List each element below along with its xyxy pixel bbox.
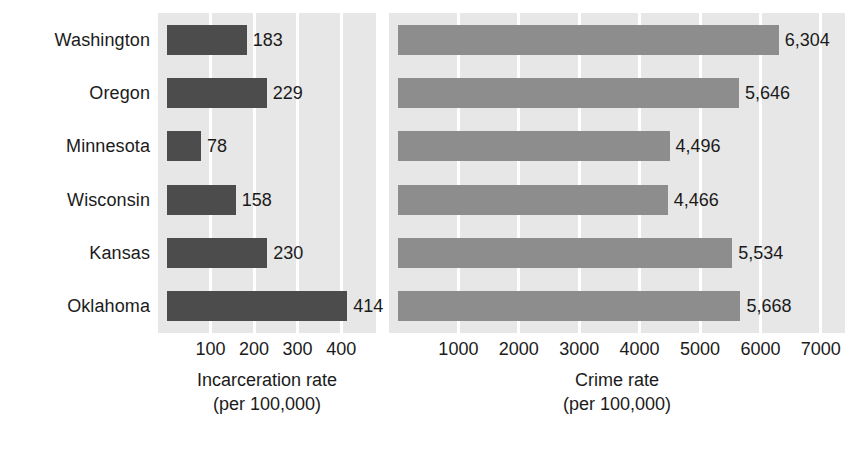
x-axis-title-sub: (per 100,000) bbox=[158, 392, 376, 416]
category-label: Wisconsin bbox=[0, 190, 150, 210]
bar-row: 158 bbox=[158, 185, 376, 215]
bar-value-label: 4,466 bbox=[668, 190, 719, 210]
x-tick-label: 6000 bbox=[740, 338, 780, 360]
bar-row: 230 bbox=[158, 238, 376, 268]
bars-incarceration: 18322978158230414 bbox=[158, 13, 376, 333]
bar-value-label: 183 bbox=[247, 30, 283, 50]
x-tick-label: 1000 bbox=[438, 338, 478, 360]
bar-value-label: 78 bbox=[201, 136, 227, 156]
x-tick-label: 200 bbox=[239, 338, 269, 360]
x-tick-label: 7000 bbox=[801, 338, 841, 360]
bar bbox=[167, 131, 201, 161]
bar bbox=[398, 185, 668, 215]
bar-row: 78 bbox=[158, 131, 376, 161]
x-tick-label: 2000 bbox=[499, 338, 539, 360]
x-tick-label: 400 bbox=[326, 338, 356, 360]
bar-value-label: 5,534 bbox=[732, 243, 783, 263]
bar-value-label: 6,304 bbox=[779, 30, 830, 50]
bar bbox=[398, 25, 779, 55]
bar-value-label: 4,496 bbox=[670, 136, 721, 156]
bar bbox=[167, 291, 347, 321]
x-axis-title-main: Crime rate bbox=[575, 370, 659, 390]
bar-row: 229 bbox=[158, 78, 376, 108]
x-tick-label: 100 bbox=[196, 338, 226, 360]
x-axis-title-main: Incarceration rate bbox=[197, 370, 337, 390]
bar bbox=[167, 78, 267, 108]
bar-value-label: 414 bbox=[347, 296, 383, 316]
bar-row: 183 bbox=[158, 25, 376, 55]
x-axis-title-crime: Crime rate (per 100,000) bbox=[389, 368, 845, 416]
bars-crime: 6,3045,6464,4964,4665,5345,668 bbox=[389, 13, 845, 333]
chart-figure: WashingtonOregonMinnesotaWisconsinKansas… bbox=[0, 0, 854, 459]
x-axis-title-incarceration: Incarceration rate (per 100,000) bbox=[158, 368, 376, 416]
bar-row: 5,646 bbox=[389, 78, 845, 108]
x-tick-label: 4000 bbox=[620, 338, 660, 360]
bar-row: 6,304 bbox=[389, 25, 845, 55]
x-axis-title-sub: (per 100,000) bbox=[389, 392, 845, 416]
category-label: Washington bbox=[0, 30, 150, 50]
bar bbox=[398, 291, 740, 321]
x-tick-labels-incarceration: 100200300400 bbox=[158, 338, 376, 360]
bar bbox=[167, 25, 247, 55]
bar bbox=[398, 78, 739, 108]
bar-value-label: 229 bbox=[267, 83, 303, 103]
bar-row: 5,668 bbox=[389, 291, 845, 321]
bar bbox=[398, 131, 670, 161]
x-tick-label: 3000 bbox=[559, 338, 599, 360]
bar-row: 4,496 bbox=[389, 131, 845, 161]
category-label: Oklahoma bbox=[0, 296, 150, 316]
category-label: Kansas bbox=[0, 243, 150, 263]
category-label: Minnesota bbox=[0, 136, 150, 156]
bar bbox=[167, 185, 236, 215]
bar-value-label: 158 bbox=[236, 190, 272, 210]
bar-row: 5,534 bbox=[389, 238, 845, 268]
bar bbox=[167, 238, 267, 268]
x-tick-labels-crime: 1000200030004000500060007000 bbox=[389, 338, 845, 360]
bar-row: 414 bbox=[158, 291, 376, 321]
x-tick-label: 5000 bbox=[680, 338, 720, 360]
x-tick-label: 300 bbox=[283, 338, 313, 360]
category-axis-labels: WashingtonOregonMinnesotaWisconsinKansas… bbox=[0, 13, 150, 333]
panel-incarceration: 18322978158230414 bbox=[158, 13, 376, 333]
bar-value-label: 5,668 bbox=[740, 296, 791, 316]
bar-row: 4,466 bbox=[389, 185, 845, 215]
bar-value-label: 5,646 bbox=[739, 83, 790, 103]
category-label: Oregon bbox=[0, 83, 150, 103]
bar-value-label: 230 bbox=[267, 243, 303, 263]
bar bbox=[398, 238, 732, 268]
panel-crime: 6,3045,6464,4964,4665,5345,668 bbox=[389, 13, 845, 333]
